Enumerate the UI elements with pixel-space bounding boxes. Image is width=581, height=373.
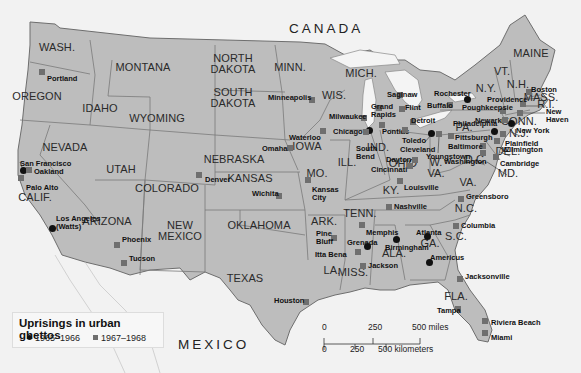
city-label: Miami — [491, 334, 512, 342]
state-label-nh: N.H. — [507, 79, 529, 90]
state-label-colorado: COLORADO — [135, 183, 199, 194]
city-label: Buffalo — [427, 102, 453, 110]
city-label: Washington — [444, 158, 487, 166]
city-label: Poughkeepsie — [462, 104, 513, 112]
scale-km-250: 250 — [350, 344, 364, 354]
square-marker-icon — [18, 175, 24, 181]
state-label-iowa: IOWA — [292, 141, 321, 152]
city-label: Philadelphia — [453, 120, 497, 128]
state-label-minn: MINN. — [274, 62, 306, 73]
circle-marker-icon — [393, 236, 400, 243]
circle-marker-icon — [49, 225, 56, 232]
city-label: Americus — [430, 254, 464, 262]
city-label: New Haven — [546, 108, 569, 123]
state-label-sc: S.C. — [445, 231, 467, 242]
state-label-oklahoma: OKLAHOMA — [227, 220, 290, 231]
scale-miles-250: 250 — [368, 322, 382, 332]
city-label: Milwaukee — [329, 113, 367, 121]
square-marker-icon — [457, 276, 463, 282]
square-marker-icon — [39, 69, 45, 75]
city-label: Itta Bena — [315, 251, 347, 259]
city-label: Jacksonville — [465, 273, 510, 281]
square-marker-icon — [26, 167, 32, 173]
legend: Uprisings in urban ghettos 1965–1966 196… — [12, 312, 164, 348]
state-label-ark: ARK. — [311, 216, 337, 227]
square-marker-icon — [493, 154, 499, 160]
city-label: Grenada — [347, 239, 377, 247]
state-label-mich: MICH. — [345, 68, 377, 79]
square-marker-icon — [458, 196, 464, 202]
state-label-maine: MAINE — [513, 48, 548, 59]
city-label: Wilmington — [502, 146, 543, 154]
square-marker-icon — [500, 131, 506, 137]
city-label: Kansas City — [312, 186, 339, 201]
square-marker-icon — [359, 222, 365, 228]
state-label-oregon: OREGON — [12, 91, 62, 102]
state-label-nevada: NEVADA — [42, 142, 87, 153]
legend-item-1967-1968: 1967–1968 — [93, 333, 146, 343]
city-label: Columbia — [461, 222, 495, 230]
square-marker-icon — [482, 330, 488, 336]
legend-item-1965-1966: 1965–1966 — [27, 333, 80, 343]
city-label: Minneapolis — [268, 94, 311, 102]
scale: 0 250 500 miles 0 250 500 kilometers — [318, 322, 458, 352]
city-label: Cambridge — [500, 160, 539, 168]
state-label-ny: N.Y. — [476, 83, 496, 94]
square-marker-icon — [93, 335, 98, 340]
city-label: Wichita — [252, 190, 279, 198]
square-marker-icon — [355, 249, 361, 255]
circle-marker-icon — [428, 130, 435, 137]
state-label-md: MD. — [498, 168, 518, 179]
city-label: Nashville — [394, 203, 427, 211]
state-label-nebraska: NEBRASKA — [204, 154, 265, 165]
state-label-nc: N.C. — [455, 203, 477, 214]
square-marker-icon — [453, 223, 459, 229]
square-marker-icon — [305, 177, 311, 183]
city-label: Baltimore — [448, 143, 483, 151]
square-marker-icon — [402, 127, 408, 133]
country-label-mexico: MEXICO — [178, 338, 249, 352]
circle-marker-icon — [508, 120, 515, 127]
city-label: Denver — [205, 176, 230, 184]
city-label: Pittsburgh — [455, 134, 493, 142]
circle-marker-icon — [27, 335, 32, 340]
state-label-va: VA. — [459, 177, 476, 188]
city-label: Houston — [274, 297, 304, 305]
city-label: Palo Alto — [26, 184, 58, 192]
city-label: Oakland — [34, 168, 64, 176]
square-marker-icon — [436, 131, 442, 137]
city-label: Louisville — [404, 184, 439, 192]
square-marker-icon — [480, 150, 486, 156]
state-label-fla: FLA. — [444, 291, 468, 302]
city-label: Memphis — [366, 229, 399, 237]
city-label: Phoenix — [122, 236, 151, 244]
square-marker-icon — [494, 138, 500, 144]
city-label: Chicago — [333, 128, 363, 136]
state-label-idaho: IDAHO — [82, 103, 117, 114]
city-label: Jackson — [368, 262, 398, 270]
state-label-ky: KY. — [383, 185, 400, 196]
city-label: Detroit — [411, 117, 435, 125]
city-label: Portland — [47, 75, 77, 83]
state-label-tenn: TENN. — [343, 208, 377, 219]
square-marker-icon — [386, 204, 392, 210]
square-marker-icon — [196, 172, 202, 178]
square-marker-icon — [287, 145, 293, 151]
city-label: Boston — [531, 86, 557, 94]
map-container: CANADA MEXICO WASH.OREGONIDAHOMONTANAWYO… — [0, 0, 581, 373]
state-label-texas: TEXAS — [227, 273, 264, 284]
state-label-new-mexico: NEW MEXICO — [158, 220, 202, 242]
state-label-kansas: KANSAS — [227, 173, 272, 184]
square-marker-icon — [517, 110, 523, 116]
square-marker-icon — [363, 129, 369, 135]
state-label-utah: UTAH — [106, 164, 136, 175]
state-label-wash: WASH. — [39, 42, 75, 53]
square-marker-icon — [407, 163, 413, 169]
city-label: New York — [516, 127, 550, 135]
city-label: Tucson — [129, 255, 155, 263]
city-label: Flint — [405, 104, 421, 112]
country-label-canada: CANADA — [289, 22, 363, 36]
state-label-south-dakota: SOUTH DAKOTA — [210, 87, 255, 109]
city-label: Rochester — [434, 90, 471, 98]
state-label-montana: MONTANA — [116, 62, 171, 73]
